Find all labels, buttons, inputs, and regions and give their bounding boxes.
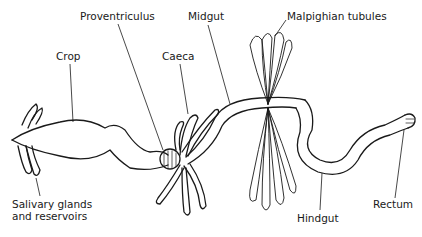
label-crop: Crop [56,50,81,62]
gut-diagram: Proventriculus Midgut Malpighian tubules… [0,0,422,237]
label-midgut: Midgut [188,10,224,22]
label-caeca: Caeca [162,50,194,62]
label-salivary-line1: Salivary glands [12,198,92,210]
label-salivary-line2: and reservoirs [12,210,87,222]
label-proventriculus: Proventriculus [80,10,155,22]
label-malpighian-tubules: Malpighian tubules [287,10,387,22]
label-hindgut: Hindgut [297,212,339,224]
label-salivary-glands: Salivary glands and reservoirs [12,198,92,222]
label-rectum: Rectum [373,198,413,210]
